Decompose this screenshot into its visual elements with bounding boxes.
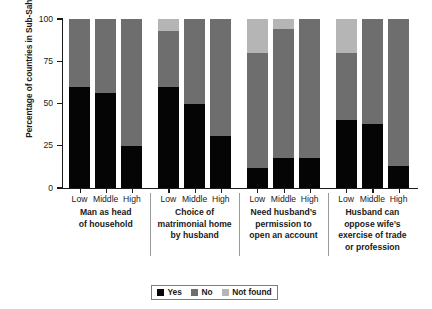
x-tick [284, 188, 285, 193]
segment-no [247, 53, 268, 168]
segment-no [69, 19, 90, 87]
legend-item-not-found: Not found [222, 288, 272, 296]
legend-label-no: No [201, 288, 212, 296]
legend-item-yes: Yes [157, 288, 182, 296]
x-tick [310, 188, 311, 193]
bar-3-middle [362, 19, 383, 188]
y-tick-label-25: 25 [23, 141, 53, 150]
segment-no [158, 31, 179, 87]
x-tick [106, 188, 107, 193]
x-tick [80, 188, 81, 193]
bar-2-low [247, 19, 268, 188]
segment-yes [388, 166, 409, 188]
legend-swatch-no [191, 289, 198, 296]
plot-area [63, 19, 418, 188]
y-tick-label-100: 100 [23, 15, 53, 24]
segment-no [362, 19, 383, 124]
x-tick [372, 188, 373, 193]
segment-no [184, 19, 205, 104]
x-tick [221, 188, 222, 193]
segment-yes [184, 104, 205, 189]
bar-0-high [121, 19, 142, 188]
bar-2-middle [273, 19, 294, 188]
group-label-3: Husband canoppose wife’sexercise of trad… [320, 207, 424, 253]
segment-no [95, 19, 116, 93]
legend-swatch-not-found [222, 289, 229, 296]
segment-not-found [247, 19, 268, 53]
segment-not-found [336, 19, 357, 53]
bar-1-middle [184, 19, 205, 188]
segment-yes [336, 120, 357, 188]
bar-2-high [299, 19, 320, 188]
segment-yes [247, 168, 268, 188]
segment-no [336, 53, 357, 121]
bar-3-high [388, 19, 409, 188]
segment-yes [362, 124, 383, 188]
x-tick [399, 188, 400, 193]
y-tick-label-0: 0 [23, 184, 53, 193]
legend-label-not-found: Not found [232, 288, 272, 296]
segment-no [299, 19, 320, 158]
bar-3-low [336, 19, 357, 188]
x-tick [195, 188, 196, 193]
x-axis-line [62, 188, 418, 189]
y-tick-label-75: 75 [23, 57, 53, 66]
chart-legend: Yes No Not found [151, 285, 278, 300]
x-label-high: High [375, 194, 423, 204]
segment-yes [121, 146, 142, 188]
segment-not-found [158, 19, 179, 31]
segment-yes [273, 158, 294, 188]
legend-label-yes: Yes [168, 288, 182, 296]
stacked-bar-chart: Percentage of countries in Sub-Saharan A… [0, 0, 432, 309]
bar-0-middle [95, 19, 116, 188]
x-tick [346, 188, 347, 193]
bar-1-high [210, 19, 231, 188]
segment-yes [158, 87, 179, 188]
segment-yes [95, 93, 116, 188]
segment-yes [299, 158, 320, 188]
segment-not-found [273, 19, 294, 29]
legend-item-no: No [191, 288, 213, 296]
y-tick-label-50: 50 [23, 99, 53, 108]
x-tick [132, 188, 133, 193]
segment-no [121, 19, 142, 146]
segment-yes [69, 87, 90, 188]
segment-no [388, 19, 409, 166]
legend-swatch-yes [157, 289, 164, 296]
segment-no [210, 19, 231, 136]
bar-0-low [69, 19, 90, 188]
bar-1-low [158, 19, 179, 188]
segment-yes [210, 136, 231, 188]
x-tick [168, 188, 169, 193]
segment-no [273, 29, 294, 157]
x-tick [257, 188, 258, 193]
